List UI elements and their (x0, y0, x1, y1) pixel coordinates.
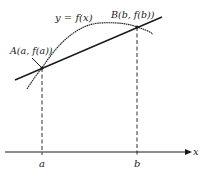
x-axis-arrow-icon (185, 149, 192, 155)
tick-label-b: b (134, 158, 140, 169)
x-axis-label: x (193, 146, 199, 157)
point-b-marker (135, 25, 138, 28)
tick-label-a: a (39, 158, 45, 169)
point-b-label: B(b, f(b)) (110, 9, 155, 20)
curve-label: y = f(x) (54, 12, 93, 23)
point-a-marker (40, 66, 43, 69)
point-a-label: A(a, f(a)) (9, 45, 53, 56)
point-a-pointer (32, 58, 42, 68)
mvt-diagram: y = f(x) A(a, f(a)) B(b, f(b)) a b x (0, 0, 200, 177)
